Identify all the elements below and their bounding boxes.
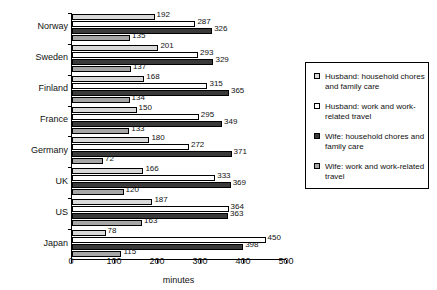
bar-wife_work (72, 158, 103, 164)
category-label-us: US (2, 208, 68, 217)
bar-value-label: 295 (199, 111, 214, 119)
bar-row: 364 (72, 206, 286, 212)
bar-row: 365 (72, 90, 286, 96)
bar-row: 168 (72, 76, 286, 82)
bar-value-label: 287 (195, 18, 210, 26)
legend-item[interactable]: Wife: work and work-related travel (314, 162, 426, 182)
bar-wife_chores (72, 244, 243, 250)
bar-row: 329 (72, 59, 286, 65)
legend-swatch-icon (314, 163, 320, 169)
bar-husband_work (72, 144, 189, 150)
y-tick (68, 75, 71, 76)
y-tick (68, 106, 71, 107)
bar-row: 293 (72, 52, 286, 58)
bar-row: 187 (72, 199, 286, 205)
bar-wife_chores (72, 182, 231, 188)
bar-value-label: 369 (231, 179, 246, 187)
legend-swatch-icon (314, 133, 320, 139)
category-label-norway: Norway (2, 22, 68, 31)
bar-value-label: 365 (229, 87, 244, 95)
bar-row: 287 (72, 21, 286, 27)
bar-value-label: 187 (152, 196, 167, 204)
y-tick (68, 229, 71, 230)
bar-value-label: 166 (143, 165, 158, 173)
bar-husband_work (72, 52, 198, 58)
bar-value-label: 398 (243, 241, 258, 249)
bar-husband_work (72, 83, 207, 89)
bar-group: 201293329137 (72, 45, 286, 73)
category-label-japan: Japan (2, 239, 68, 248)
bar-husband_work (72, 175, 215, 181)
bar-row: 398 (72, 244, 286, 250)
bar-group: 166333369120 (72, 168, 286, 196)
bar-row: 135 (72, 35, 286, 41)
bar-value-label: 120 (124, 186, 139, 194)
y-tick (68, 167, 71, 168)
bar-group: 187364363163 (72, 199, 286, 227)
bar-value-label: 134 (130, 94, 145, 102)
bar-value-label: 371 (232, 148, 247, 156)
y-tick (68, 198, 71, 199)
legend-swatch-icon (314, 103, 320, 109)
bar-value-label: 363 (228, 210, 243, 218)
bar-wife_chores (72, 90, 229, 96)
bar-husband_chores (72, 199, 152, 205)
bar-row: 201 (72, 45, 286, 51)
plot-area: 1922873261352012933291371683153651341502… (71, 13, 286, 260)
bar-row: 315 (72, 83, 286, 89)
bar-value-label: 78 (106, 227, 117, 235)
bar-value-label: 72 (103, 155, 114, 163)
x-tick-label: 200 (142, 257, 172, 266)
legend-item[interactable]: Husband: work and work-related travel (314, 102, 426, 122)
bar-group: 168315365134 (72, 76, 286, 104)
bar-value-label: 135 (130, 32, 145, 40)
bar-group: 78450398115 (72, 230, 286, 258)
bar-husband_work (72, 206, 229, 212)
legend-label: Wife: household chores and family care (325, 132, 426, 152)
bar-wife_work (72, 97, 130, 103)
bar-row: 137 (72, 66, 286, 72)
y-tick (68, 136, 71, 137)
bar-value-label: 150 (137, 104, 152, 112)
bar-husband_work (72, 237, 266, 243)
category-label-uk: UK (2, 177, 68, 186)
bar-value-label: 349 (222, 118, 237, 126)
bar-row: 72 (72, 158, 286, 164)
bar-wife_work (72, 66, 131, 72)
bar-husband_chores (72, 45, 158, 51)
bar-value-label: 115 (121, 248, 136, 256)
bar-value-label: 333 (215, 172, 230, 180)
bar-row: 134 (72, 97, 286, 103)
category-label-france: France (2, 115, 68, 124)
bar-value-label: 180 (149, 134, 164, 142)
bar-value-label: 201 (158, 42, 173, 50)
bar-value-label: 315 (207, 80, 222, 88)
x-tick-label: 500 (271, 257, 301, 266)
bar-husband_chores (72, 76, 144, 82)
bar-husband_chores (72, 107, 137, 113)
legend-item[interactable]: Husband: household chores and family car… (314, 72, 426, 92)
bar-wife_chores (72, 121, 222, 127)
bar-husband_work (72, 114, 199, 120)
bar-value-label: 163 (142, 217, 157, 225)
category-label-finland: Finland (2, 84, 68, 93)
bar-row: 180 (72, 137, 286, 143)
x-tick-label: 400 (228, 257, 258, 266)
legend-swatch-icon (314, 73, 320, 79)
legend-label: Husband: household chores and family car… (325, 72, 426, 92)
bar-chart: NorwaySwedenFinlandFranceGermanyUKUSJapa… (0, 0, 437, 290)
legend-item[interactable]: Wife: household chores and family care (314, 132, 426, 152)
bar-group: 150295349133 (72, 107, 286, 135)
x-axis-title: minutes (71, 275, 286, 285)
y-tick (68, 44, 71, 45)
bar-husband_chores (72, 168, 143, 174)
bar-row: 133 (72, 128, 286, 134)
bar-row: 78 (72, 230, 286, 236)
bar-husband_chores (72, 230, 106, 236)
bar-wife_work (72, 189, 124, 195)
bar-wife_work (72, 128, 129, 134)
x-tick-label: 0 (56, 257, 86, 266)
legend-label: Husband: work and work-related travel (325, 102, 426, 122)
bar-wife_chores (72, 151, 232, 157)
bar-row: 326 (72, 28, 286, 34)
